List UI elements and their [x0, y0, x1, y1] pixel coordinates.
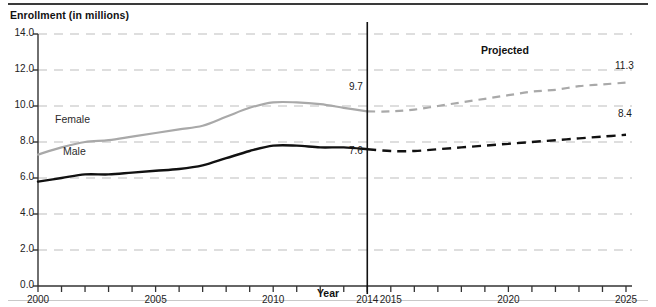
y-tick-label: 6.0: [0, 171, 34, 182]
y-tick-label: 8.0: [0, 135, 34, 146]
projected-annotation: Projected: [481, 44, 529, 56]
value-label-female-2025: 11.3: [615, 60, 634, 71]
value-label-male-2025: 8.4: [618, 108, 632, 119]
series-lines: [38, 83, 626, 182]
y-tick-label: 2.0: [0, 243, 34, 254]
y-tick-label: 12.0: [0, 63, 34, 74]
value-label-female-2014: 9.7: [349, 81, 363, 92]
y-tick-label: 4.0: [0, 207, 34, 218]
gridlines: [38, 34, 632, 250]
y-tick-label: 14.0: [0, 27, 34, 38]
chart-plot-area: [0, 0, 656, 307]
series-label-male: Male: [63, 145, 86, 157]
axis-lines: [38, 34, 632, 286]
y-tick-label: 10.0: [0, 99, 34, 110]
series-label-female: Female: [55, 113, 90, 125]
x-axis-title: Year: [0, 287, 656, 299]
value-label-male-2014: 7.6: [349, 145, 363, 156]
